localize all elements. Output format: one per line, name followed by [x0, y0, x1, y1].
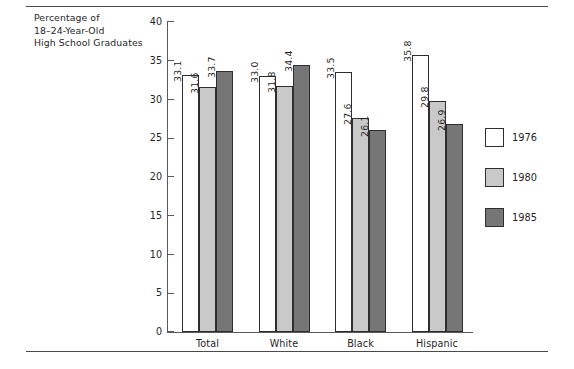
- bar-black-1985: [369, 130, 386, 332]
- bar-value-label: 33.0: [249, 62, 260, 84]
- y-axis-tick-label: 0: [136, 326, 162, 337]
- bar-total-1976: [182, 75, 199, 332]
- legend-label-1976: 1976: [512, 132, 537, 143]
- bar-value-label: 34.4: [283, 51, 294, 73]
- bar-total-1985: [216, 71, 233, 332]
- y-axis-tick-label: 10: [136, 249, 162, 260]
- bar-value-label: 29.8: [419, 86, 430, 108]
- y-axis-tick: [167, 293, 174, 294]
- x-axis-line: [167, 332, 473, 333]
- legend-item-1985[interactable]: 1985: [485, 208, 537, 227]
- bar-white-1976: [259, 76, 276, 332]
- bar-hispanic-1980: [429, 101, 446, 332]
- bar-value-label: 31.8: [266, 71, 277, 93]
- bar-value-label: 26.9: [436, 109, 447, 131]
- bar-total-1980: [199, 87, 216, 332]
- legend-swatch-1976: [485, 128, 504, 147]
- bar-hispanic-1985: [446, 124, 463, 332]
- legend-item-1980[interactable]: 1980: [485, 168, 537, 187]
- y-axis-tick: [167, 215, 174, 216]
- bar-value-label: 33.5: [325, 58, 336, 80]
- y-axis-tick-label: 35: [136, 55, 162, 66]
- bar-value-label: 35.8: [402, 40, 413, 62]
- y-axis-tick: [167, 99, 174, 100]
- legend-swatch-1985: [485, 208, 504, 227]
- y-axis-tick: [167, 331, 174, 332]
- legend-label-1985: 1985: [512, 212, 537, 223]
- y-axis-tick-label: 25: [136, 132, 162, 143]
- x-axis-label-hispanic: Hispanic: [392, 338, 482, 349]
- y-axis-tick-label: 40: [136, 16, 162, 27]
- y-axis-tick: [167, 21, 174, 22]
- y-axis-tick-label: 30: [136, 94, 162, 105]
- y-axis-tick: [167, 138, 174, 139]
- y-axis-tick-label: 5: [136, 287, 162, 298]
- bar-value-label: 26.1: [359, 115, 370, 137]
- y-axis-tick: [167, 254, 174, 255]
- legend-label-1980: 1980: [512, 172, 537, 183]
- y-axis-tick: [167, 176, 174, 177]
- bar-value-label: 31.6: [189, 72, 200, 94]
- legend-item-1976[interactable]: 1976: [485, 128, 537, 147]
- bar-value-label: 33.7: [206, 56, 217, 78]
- bar-value-label: 33.1: [172, 61, 183, 83]
- legend-swatch-1980: [485, 168, 504, 187]
- bar-black-1980: [352, 118, 369, 332]
- y-axis-tick-label: 20: [136, 171, 162, 182]
- y-axis-tick-label: 15: [136, 210, 162, 221]
- bar-value-label: 27.6: [342, 103, 353, 125]
- bar-white-1985: [293, 65, 310, 332]
- bar-white-1980: [276, 86, 293, 332]
